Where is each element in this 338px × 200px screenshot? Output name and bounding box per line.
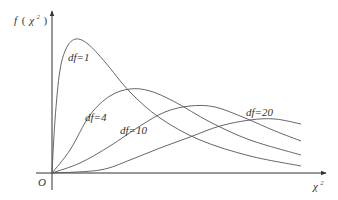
- label-df-1: df=1: [68, 51, 89, 63]
- chi-square-density-chart: f ( χ 2 ) χ 2 O df=1 df=4 df=10 df=20: [0, 0, 338, 200]
- label-df-20: df=20: [246, 106, 273, 118]
- x-axis-label: χ 2: [312, 180, 324, 192]
- curve-df-20: [52, 119, 301, 173]
- curve-df-4: [52, 89, 301, 173]
- y-axis-label: f ( χ 2 ): [14, 9, 48, 27]
- label-df-4: df=4: [85, 111, 107, 123]
- label-df-10: df=10: [120, 124, 147, 136]
- origin-label: O: [38, 176, 46, 188]
